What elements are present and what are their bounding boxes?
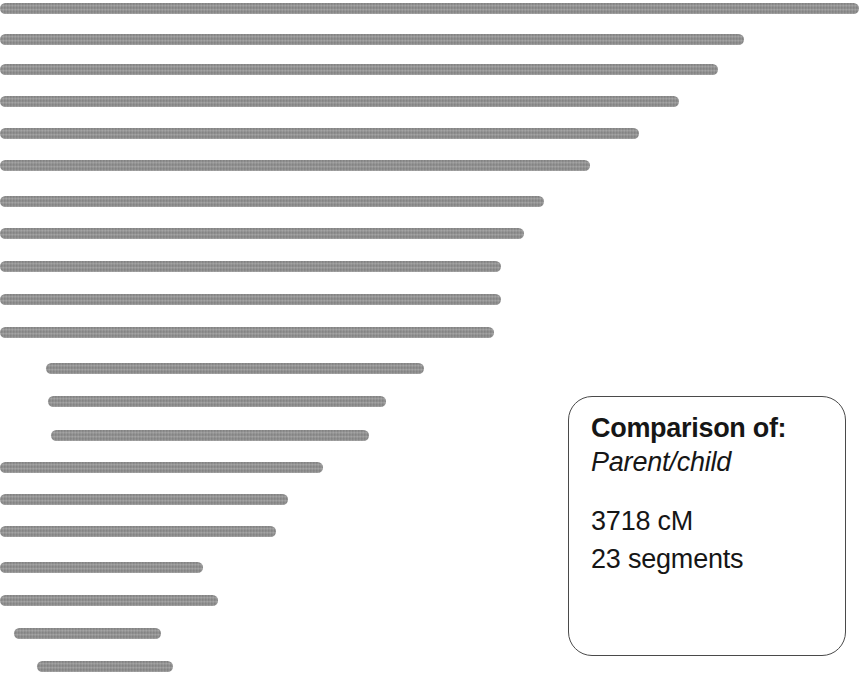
chromosome-segment-bar (0, 526, 276, 537)
chromosome-segment-bar (0, 462, 323, 473)
chromosome-segment-bar (0, 261, 501, 272)
chromosome-segment-bar (0, 128, 639, 139)
chromosome-segment-bar (0, 595, 218, 606)
chromosome-segment-bar (0, 494, 288, 505)
chromosome-segment-bar (0, 96, 679, 107)
chromosome-comparison-figure: Comparison of: Parent/child 3718 cM 23 s… (0, 0, 859, 677)
chromosome-segment-bar (51, 430, 369, 441)
callout-content: Comparison of: Parent/child 3718 cM 23 s… (591, 413, 835, 575)
chromosome-segment-bar (0, 160, 590, 171)
chromosome-segment-bar (0, 562, 203, 573)
chromosome-segment-bar (0, 196, 544, 207)
chromosome-segment-bar (37, 661, 173, 672)
comparison-callout-box: Comparison of: Parent/child 3718 cM 23 s… (568, 396, 846, 656)
chromosome-segment-bar (46, 363, 424, 374)
callout-segment-count: 23 segments (591, 544, 835, 575)
callout-total-cm: 3718 cM (591, 506, 835, 537)
chromosome-segment-bar (0, 34, 744, 45)
chromosome-segment-bar (0, 64, 718, 75)
callout-title: Comparison of: (591, 413, 835, 444)
chromosome-segment-bar (48, 396, 386, 407)
chromosome-segment-bar (0, 228, 524, 239)
chromosome-segment-bar (0, 294, 501, 305)
chromosome-segment-bar (14, 628, 161, 639)
callout-relationship: Parent/child (591, 447, 835, 478)
chromosome-segment-bar (0, 327, 494, 338)
chromosome-segment-bar (0, 3, 859, 14)
